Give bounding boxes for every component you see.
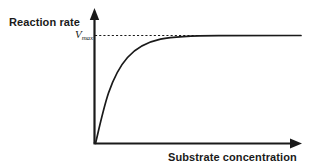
x-axis-label: Substrate concentration xyxy=(168,151,297,163)
vmax-subscript: max xyxy=(82,34,93,42)
vmax-tick-label: Vmax xyxy=(62,28,93,44)
x-axis-arrowhead xyxy=(290,139,302,149)
vmax-symbol: V xyxy=(75,28,82,40)
michaelis-menten-chart: Reaction rate Substrate concentration Vm… xyxy=(0,0,310,168)
x-axis xyxy=(94,139,303,149)
y-axis-arrowhead xyxy=(90,8,99,20)
saturation-curve xyxy=(96,36,302,144)
y-axis-label: Reaction rate xyxy=(9,16,80,28)
